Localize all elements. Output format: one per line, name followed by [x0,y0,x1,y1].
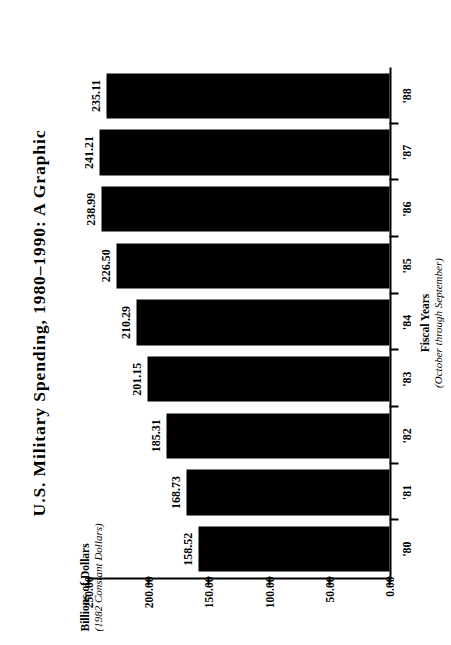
bar-value-label: 238.99 [83,192,101,225]
category-tick-mark [389,122,398,124]
bar [198,526,389,571]
bar [116,243,389,288]
bar [106,73,389,118]
category-tick-label: '85 [399,235,414,295]
category-tick-mark [389,462,398,464]
bar [186,469,389,514]
category-tick-label: '88 [399,65,414,125]
bar [99,129,389,174]
category-tick-label: '83 [399,349,414,409]
category-axis-subtitle: (October through September) [431,0,444,645]
bar-chart-figure: U.S. Military Spending, 1980–1990: A Gra… [0,0,451,645]
bar [101,186,389,231]
category-tick-label: '80 [399,519,414,579]
value-tick-label: 100.00 [263,576,275,630]
category-tick-mark [389,405,398,407]
value-tick-label: 50.00 [323,576,335,630]
bar-value-label: 235.11 [88,79,106,111]
category-tick-label: '87 [399,122,414,182]
plot-area: 158.52168.73185.31201.15210.29226.50238.… [88,67,389,577]
category-tick-mark [389,178,398,180]
bar-value-label: 226.50 [98,249,116,282]
category-tick-label: '81 [399,462,414,522]
category-tick-label: '84 [399,292,414,352]
bar [147,356,389,401]
category-tick-mark [389,518,398,520]
category-axis-title-main: Fiscal Years [418,293,430,352]
value-tick-label: 200.00 [142,576,154,630]
bar [166,413,389,458]
category-tick-mark [389,235,398,237]
chart-title: U.S. Military Spending, 1980–1990: A Gra… [28,0,49,645]
category-tick-mark [389,292,398,294]
bar-value-label: 158.52 [180,532,198,565]
category-tick-label: '82 [399,405,414,465]
rotated-figure-canvas: U.S. Military Spending, 1980–1990: A Gra… [0,0,451,645]
category-axis-title: Fiscal Years (October through September) [418,0,444,645]
bar-value-label: 210.29 [118,306,136,339]
value-tick-label: 250.00 [82,576,94,630]
bar [136,299,389,344]
category-tick-label: '86 [399,179,414,239]
value-tick-label: 0.00 [383,576,395,630]
bar-value-label: 201.15 [129,362,147,395]
bar-value-label: 185.31 [148,419,166,452]
category-tick-mark [389,348,398,350]
bar-value-label: 168.73 [168,476,186,509]
value-tick-label: 150.00 [202,576,214,630]
bar-value-label: 241.21 [81,136,99,169]
